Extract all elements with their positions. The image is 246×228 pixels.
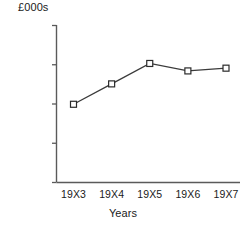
data-series	[71, 60, 230, 107]
x-axis-tick-label: 19X4	[99, 188, 124, 200]
x-axis-title: Years	[0, 207, 246, 219]
line-chart: £000s 010 00020 00030 00040 000 19X319X4…	[0, 0, 246, 228]
axes	[57, 25, 241, 183]
x-axis-tick-label: 19X3	[61, 188, 86, 200]
data-point-marker	[109, 81, 115, 87]
x-axis-tick-label: 19X6	[175, 188, 200, 200]
data-point-marker	[185, 68, 191, 74]
series-line	[74, 63, 227, 104]
data-point-marker	[223, 65, 229, 71]
data-point-marker	[71, 101, 77, 107]
data-point-marker	[147, 60, 153, 66]
series-markers	[71, 60, 230, 107]
x-axis-tick-label: 19X7	[214, 188, 239, 200]
x-axis-tick-label: 19X5	[137, 188, 162, 200]
